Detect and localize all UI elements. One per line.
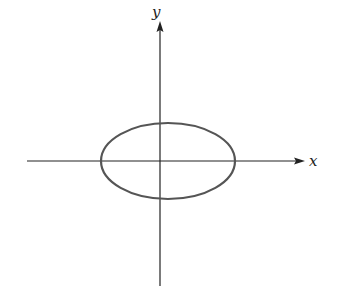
- x-axis-label: x: [309, 152, 318, 170]
- ellipse-diagram: x y: [0, 0, 337, 286]
- y-axis-label: y: [151, 3, 161, 21]
